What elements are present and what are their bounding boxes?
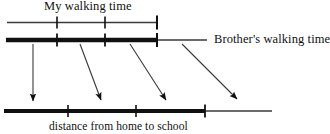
my-walking-time-label: My walking time xyxy=(44,0,132,14)
mapping-arrow-2 xyxy=(80,44,101,100)
mapping-arrow-4 xyxy=(182,44,237,99)
mapping-arrow-3 xyxy=(130,44,166,100)
distance-axis-label: distance from home to school xyxy=(49,120,188,132)
distance-axis xyxy=(4,105,272,118)
brothers-walking-time-axis xyxy=(6,33,207,47)
brothers-walking-time-label: Brother's walking time xyxy=(214,32,330,47)
mapping-arrows xyxy=(33,44,237,101)
my-walking-time-axis xyxy=(7,16,158,30)
